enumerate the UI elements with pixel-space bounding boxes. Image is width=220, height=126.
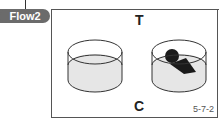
figure-id: 5-7-2 (193, 104, 214, 114)
label-t: T (135, 12, 144, 28)
left-cylinder (68, 40, 122, 92)
cylinders-diagram (0, 0, 220, 126)
label-c: C (134, 98, 144, 114)
right-cylinder (152, 40, 206, 92)
